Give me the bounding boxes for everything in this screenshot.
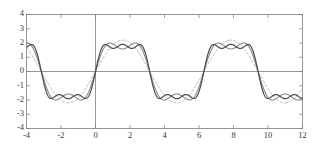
- x-tick-label: 12: [298, 130, 307, 140]
- chart-svg: -4-202468101243210-1-2-3-4: [0, 0, 313, 150]
- chart-figure: -4-202468101243210-1-2-3-4: [0, 0, 313, 150]
- y-tick-label: -1: [17, 80, 24, 90]
- y-tick-label: 1: [20, 51, 24, 61]
- y-tick-label: 0: [20, 65, 24, 75]
- x-tick-label: 8: [231, 130, 235, 140]
- y-tick-label: -3: [17, 108, 24, 118]
- plot-area: -4-202468101243210-1-2-3-4: [0, 0, 313, 150]
- x-tick-label: 2: [128, 130, 132, 140]
- x-tick-label: 6: [197, 130, 201, 140]
- x-tick-label: 0: [93, 130, 97, 140]
- y-tick-label: 2: [20, 37, 24, 47]
- x-tick-label: -4: [23, 130, 31, 140]
- y-tick-label: -4: [17, 122, 25, 132]
- x-tick-label: 10: [264, 130, 273, 140]
- y-tick-label: 3: [20, 23, 24, 33]
- x-tick-label: 4: [162, 130, 167, 140]
- y-tick-label: 4: [20, 8, 25, 18]
- x-tick-label: -2: [57, 130, 64, 140]
- y-tick-label: -2: [17, 94, 24, 104]
